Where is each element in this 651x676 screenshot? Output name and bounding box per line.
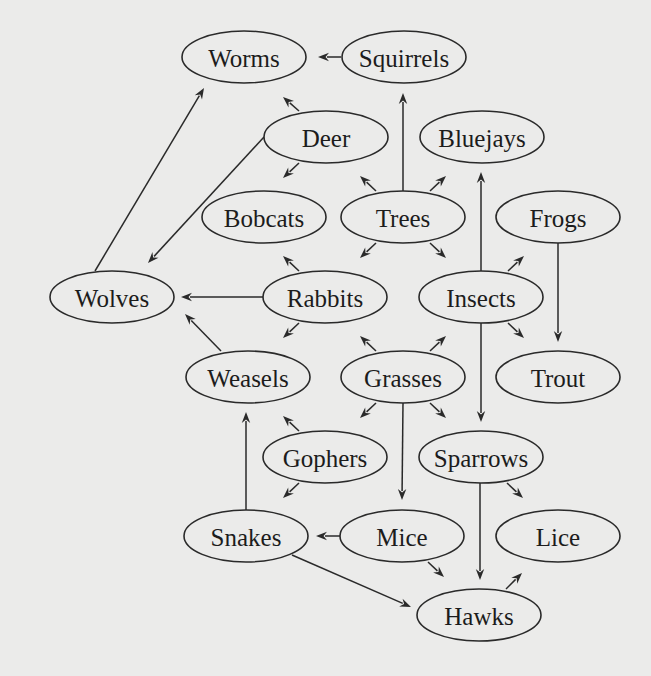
edge-trees-to-deer: [360, 176, 376, 191]
edge-insects-to-sparrows: [477, 323, 485, 422]
node-lice: Lice: [496, 510, 620, 562]
edge-line: [290, 103, 299, 111]
node-worms: Worms: [182, 31, 306, 83]
edge-sparrows-to-hawks: [476, 483, 484, 580]
edge-line: [428, 562, 437, 571]
edge-line: [367, 182, 376, 191]
node-label: Insects: [446, 285, 515, 312]
edge-line: [290, 483, 299, 492]
edge-line: [430, 182, 439, 191]
edge-line: [290, 262, 299, 271]
edge-trees-to-insects: [430, 243, 446, 258]
node-label: Wolves: [75, 285, 149, 312]
node-label: Hawks: [444, 603, 513, 630]
edge-insects-to-bluejays: [477, 172, 485, 271]
edge-line: [507, 483, 516, 492]
edge-mice-to-hawks: [428, 562, 444, 577]
edge-squirrels-to-worms: [318, 53, 341, 61]
edge-line: [430, 403, 439, 412]
edge-hawks-to-lice: [506, 573, 522, 589]
edge-gophers-to-weasels: [283, 416, 299, 431]
edge-grasses-to-sparrows: [430, 403, 446, 418]
node-label: Squirrels: [359, 45, 449, 72]
node-label: Bobcats: [224, 205, 305, 232]
edge-frogs-to-trout: [554, 243, 562, 342]
node-grasses: Grasses: [341, 351, 465, 403]
edge-rabbits-to-wolves: [181, 293, 263, 301]
node-deer: Deer: [264, 111, 388, 163]
node-label: Trees: [376, 205, 431, 232]
node-bobcats: Bobcats: [202, 191, 326, 243]
edge-line: [191, 320, 221, 351]
edge-snakes-to-hawks: [292, 555, 411, 607]
edge-trees-to-bluejays: [430, 176, 446, 191]
node-label: Frogs: [530, 205, 587, 232]
nodes-layer: WormsSquirrelsDeerBluejaysBobcatsTreesFr…: [50, 31, 620, 641]
node-frogs: Frogs: [496, 191, 620, 243]
edge-deer-to-worms: [283, 97, 299, 111]
edge-trees-to-squirrels: [399, 93, 407, 191]
edge-wolves-to-worms: [95, 88, 204, 271]
node-bluejays: Bluejays: [420, 111, 544, 163]
node-label: Trout: [531, 365, 586, 392]
node-label: Grasses: [364, 365, 442, 392]
node-gophers: Gophers: [263, 431, 387, 483]
edge-line: [430, 243, 439, 252]
edge-rabbits-to-weasels: [283, 323, 299, 338]
edge-line: [292, 555, 403, 603]
edge-line: [402, 403, 403, 491]
edge-grasses-to-rabbits: [360, 336, 376, 351]
edge-line: [367, 243, 376, 252]
node-trout: Trout: [496, 351, 620, 403]
edge-gophers-to-snakes: [283, 483, 299, 498]
edge-line: [508, 323, 517, 332]
arrowhead-icon: [195, 88, 204, 100]
node-label: Snakes: [211, 524, 282, 551]
edge-line: [290, 422, 299, 431]
node-insects: Insects: [419, 271, 543, 323]
edge-trees-to-rabbits: [360, 243, 376, 258]
node-label: Bluejays: [438, 125, 526, 152]
node-label: Lice: [536, 524, 580, 551]
node-label: Sparrows: [434, 445, 528, 472]
edge-deer-to-bobcats: [283, 163, 299, 178]
node-label: Rabbits: [287, 285, 363, 312]
edge-line: [290, 163, 299, 172]
edge-snakes-to-weasels: [242, 412, 250, 510]
edge-line: [508, 262, 517, 271]
food-web-diagram: WormsSquirrelsDeerBluejaysBobcatsTreesFr…: [0, 0, 651, 676]
edge-line: [506, 579, 516, 589]
node-weasels: Weasels: [186, 351, 310, 403]
node-wolves: Wolves: [50, 271, 174, 323]
edge-weasels-to-wolves: [185, 314, 221, 351]
node-label: Weasels: [207, 365, 288, 392]
node-label: Worms: [208, 45, 280, 72]
node-rabbits: Rabbits: [263, 271, 387, 323]
edge-line: [367, 342, 376, 351]
edge-mice-to-snakes: [316, 532, 340, 540]
edge-grasses-to-gophers: [360, 403, 376, 418]
node-label: Gophers: [283, 445, 368, 472]
node-squirrels: Squirrels: [342, 31, 466, 83]
node-snakes: Snakes: [184, 510, 308, 562]
edge-line: [430, 342, 439, 351]
node-sparrows: Sparrows: [419, 431, 543, 483]
edge-insects-to-frogs: [508, 256, 524, 271]
node-trees: Trees: [341, 191, 465, 243]
node-hawks: Hawks: [417, 589, 541, 641]
edge-insects-to-trout: [508, 323, 524, 338]
edge-grasses-to-mice: [398, 403, 406, 500]
node-label: Mice: [376, 524, 427, 551]
edge-line: [95, 96, 199, 271]
edge-rabbits-to-bobcats: [283, 256, 299, 271]
node-label: Deer: [302, 125, 351, 152]
edge-line: [367, 403, 376, 412]
edge-sparrows-to-lice: [507, 483, 523, 498]
node-mice: Mice: [340, 510, 464, 562]
edge-line: [290, 323, 299, 332]
edge-grasses-to-insects: [430, 336, 446, 351]
